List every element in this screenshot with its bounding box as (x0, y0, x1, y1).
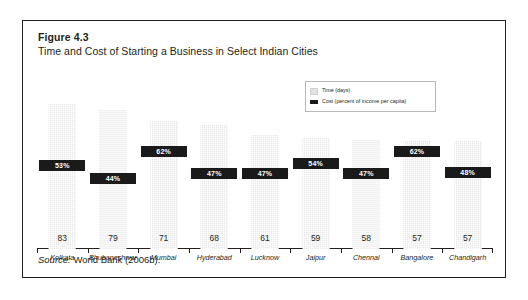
bar-column: 6847%Hyderabad (189, 61, 240, 249)
cost-value-chip: 48% (445, 167, 491, 178)
city-axis-label: Lucknow (240, 253, 291, 262)
city-axis-label: Chennai (341, 253, 392, 262)
time-bar: 57 (454, 141, 481, 249)
figure-container: Figure 4.3 Time and Cost of Starting a B… (22, 20, 506, 278)
axis-tick (138, 249, 139, 253)
bar-column: 5847%Chennai (341, 61, 392, 249)
time-value-label: 57 (403, 233, 430, 243)
figure-source: Source: World Bank (2006b). (38, 254, 160, 265)
time-bar: 83 (49, 104, 76, 249)
bar-column: 5748%Chandigarh (442, 61, 493, 249)
time-bar: 59 (302, 138, 329, 249)
time-bar: 71 (150, 121, 177, 249)
time-bar: 68 (201, 125, 228, 249)
bar-column: 8353%Kolkata (37, 61, 88, 249)
axis-tick (341, 249, 342, 253)
city-axis-label: Jaipur (290, 253, 341, 262)
axis-tick (240, 249, 241, 253)
cost-value-chip: 47% (191, 168, 237, 179)
time-value-label: 61 (251, 233, 278, 243)
cost-value-chip: 54% (293, 158, 339, 169)
axis-tick (37, 249, 38, 253)
city-axis-label: Bangalore (392, 253, 443, 262)
time-value-label: 59 (302, 233, 329, 243)
cost-value-chip: 62% (141, 146, 187, 157)
bar-column: 6147%Lucknow (240, 61, 291, 249)
cost-value-chip: 53% (39, 160, 85, 171)
axis-tick (392, 249, 393, 253)
time-value-label: 71 (150, 233, 177, 243)
time-bar: 58 (353, 140, 380, 249)
bar-column: 7162%Mumbai (138, 61, 189, 249)
axis-tick (290, 249, 291, 253)
time-value-label: 58 (353, 233, 380, 243)
time-bar: 61 (251, 135, 278, 249)
bar-column: 7944%Bhubaneshwar (88, 61, 139, 249)
axis-tick (189, 249, 190, 253)
time-value-label: 57 (454, 233, 481, 243)
city-axis-label: Chandigarh (442, 253, 493, 262)
time-value-label: 68 (201, 233, 228, 243)
city-axis-label: Hyderabad (189, 253, 240, 262)
axis-tick (88, 249, 89, 253)
cost-value-chip: 44% (90, 173, 136, 184)
source-text: World Bank (2006b). (71, 254, 161, 265)
source-word: Source: (38, 254, 71, 265)
axis-tick (492, 249, 493, 253)
cost-value-chip: 62% (394, 146, 440, 157)
figure-number: Figure 4.3 (38, 31, 89, 43)
cost-value-chip: 47% (343, 168, 389, 179)
bar-column: 5954%Jaipur (290, 61, 341, 249)
axis-tick (442, 249, 443, 253)
cost-value-chip: 47% (242, 168, 288, 179)
bar-column: 5762%Bangalore (392, 61, 443, 249)
time-value-label: 79 (99, 233, 126, 243)
figure-title: Time and Cost of Starting a Business in … (38, 45, 318, 57)
chart-plot-area: 8353%Kolkata7944%Bhubaneshwar7162%Mumbai… (37, 61, 493, 249)
time-value-label: 83 (49, 233, 76, 243)
